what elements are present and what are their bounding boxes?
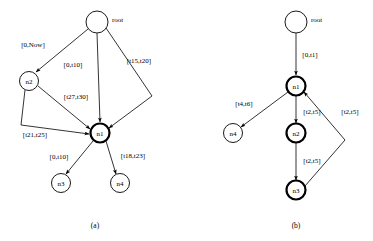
edge-root-n1-bend — [106, 28, 152, 128]
node-n3[interactable]: n3 — [287, 181, 306, 200]
edge-label-root-n1: [0,t1] — [302, 51, 317, 59]
edge-label-n3-n1: [t2,t5] — [341, 108, 358, 116]
panel-b-caption: (b) — [292, 221, 301, 230]
edge-n1-n4 — [241, 92, 288, 127]
node-n2-label: n2 — [26, 78, 34, 86]
edge-label-n1-n2: [t2,t5] — [303, 108, 320, 116]
panel-b: [0,t1] [t4,t6] [t2,t5] [t2,t5] [t2,t5] r… — [185, 0, 373, 241]
panel-a-edge-labels: [0,Now] [0,t10] [t15,t20] [t27,t30] [t21… — [21, 41, 151, 161]
edge-label-n1-n4: [t18,t23] — [121, 152, 145, 160]
node-n1-label: n1 — [293, 83, 301, 91]
edge-n1-n3 — [66, 141, 93, 174]
edge-n3-n1-bend — [304, 92, 345, 186]
edge-label-n1-n3: [0,t10] — [50, 153, 69, 161]
node-n4-label: n4 — [230, 130, 238, 138]
node-n3-label: n3 — [293, 187, 301, 195]
edge-label-n1-n4: [t4,t6] — [235, 100, 252, 108]
panel-a-caption: (a) — [91, 221, 100, 230]
node-root[interactable]: root — [86, 11, 123, 33]
node-n3-label: n3 — [58, 180, 66, 188]
panel-b-graph: [0,t1] [t4,t6] [t2,t5] [t2,t5] [t2,t5] r… — [185, 0, 373, 241]
edge-label-n2-n1-bend: [t21,t25] — [23, 131, 47, 139]
edge-label-root-n2: [0,Now] — [21, 41, 45, 49]
figure-container: [0,Now] [0,t10] [t15,t20] [t27,t30] [t21… — [0, 0, 373, 241]
node-n2[interactable]: n2 — [287, 124, 306, 143]
edge-label-n2-n3: [t2,t5] — [303, 157, 320, 165]
edge-label-root-n1-direct: [0,t10] — [64, 61, 83, 69]
node-n4-label: n4 — [117, 180, 125, 188]
node-n4[interactable]: n4 — [224, 124, 243, 143]
node-root-circle[interactable] — [86, 11, 108, 33]
node-n1-label: n1 — [97, 130, 105, 138]
edge-label-root-n1-bend: [t15,t20] — [127, 57, 151, 65]
node-n1[interactable]: n1 — [91, 124, 110, 143]
node-n2[interactable]: n2 — [20, 72, 39, 91]
node-n2-label: n2 — [293, 130, 301, 138]
node-n3[interactable]: n3 — [52, 174, 71, 193]
edge-label-n2-n1-direct: [t27,t30] — [64, 93, 88, 101]
edge-n1-n4 — [106, 141, 116, 174]
panel-b-edge-labels: [0,t1] [t4,t6] [t2,t5] [t2,t5] [t2,t5] — [235, 51, 358, 165]
node-n4[interactable]: n4 — [111, 174, 130, 193]
node-root-label: root — [311, 16, 322, 24]
edge-root-n1-direct — [97, 33, 100, 122]
panel-a: [0,Now] [0,t10] [t15,t20] [t27,t30] [t21… — [0, 0, 190, 241]
node-root-label: root — [112, 16, 123, 24]
node-root-circle[interactable] — [285, 11, 307, 33]
node-root[interactable]: root — [285, 11, 322, 33]
panel-b-edges — [241, 33, 345, 186]
node-n1[interactable]: n1 — [287, 77, 306, 96]
panel-a-graph: [0,Now] [0,t10] [t15,t20] [t27,t30] [t21… — [0, 0, 190, 241]
